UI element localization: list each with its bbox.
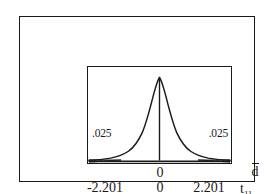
t-axis-name-label: t11 (240, 181, 270, 194)
dbar-axis-name-label: d (242, 163, 268, 180)
t-axis-tick-zero: 0 (148, 180, 172, 194)
t-axis-degrees-of-freedom-subscript: 11 (244, 189, 252, 194)
tail-baseline-strip (89, 160, 230, 162)
t-axis-tick-positive-critical: 2.201 (178, 180, 240, 194)
left-tail-area-label: .025 (92, 127, 111, 139)
t-distribution-curve-svg (88, 67, 231, 163)
dbar-axis-name-letter: d (252, 163, 259, 180)
figure-outer-frame: .025 .025 0 -2.201 0 2.201 d t11 (19, 16, 255, 182)
t-axis-tick-negative-critical: -2.201 (70, 180, 140, 194)
figure-root: .025 .025 0 -2.201 0 2.201 d t11 (0, 0, 273, 194)
dbar-axis-tick-zero: 0 (148, 165, 172, 181)
right-tail-area-label: .025 (209, 127, 228, 139)
distribution-plot-box: .025 .025 (87, 66, 232, 164)
